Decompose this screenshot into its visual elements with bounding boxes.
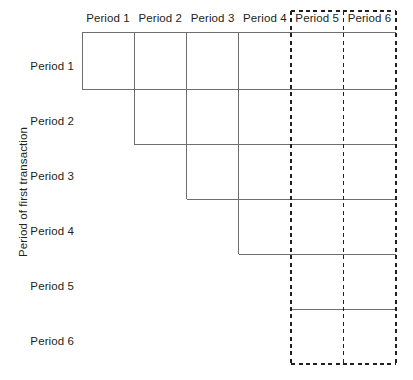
triangle-grid-graphic	[0, 0, 413, 380]
run-off-triangle-figure: Period of first transaction Period 1 Per…	[0, 0, 413, 380]
triangle-solid-lines	[82, 32, 396, 309]
highlight-dashed-box	[291, 11, 396, 364]
